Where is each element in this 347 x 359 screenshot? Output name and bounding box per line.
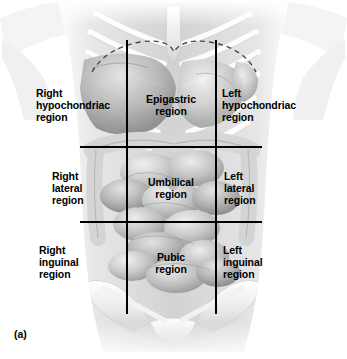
region-label-left-inguinal: Left inguinal region — [223, 244, 262, 281]
region-label-pubic: Pubic region — [132, 251, 210, 275]
abdominal-regions-figure: Right hypochondriac region Epigastric re… — [0, 0, 347, 359]
figure-caption: (a) — [14, 328, 27, 340]
region-label-right-lateral: Right lateral region — [52, 170, 84, 207]
grid-line-subcostal — [80, 146, 262, 148]
grid-line-vertical-left — [215, 40, 217, 314]
region-label-right-hypochondriac: Right hypochondriac region — [36, 87, 110, 124]
grid-line-intertubercular — [80, 221, 262, 223]
region-label-left-hypochondriac: Left hypochondriac region — [222, 87, 296, 124]
region-label-epigastric: Epigastric region — [132, 93, 210, 117]
region-label-right-inguinal: Right inguinal region — [39, 244, 78, 281]
region-label-umbilical: Umbilical region — [132, 176, 210, 200]
diaphragm-dashed-curve — [92, 41, 256, 72]
region-label-left-lateral: Left lateral region — [224, 170, 256, 207]
grid-line-vertical-right — [126, 40, 128, 314]
